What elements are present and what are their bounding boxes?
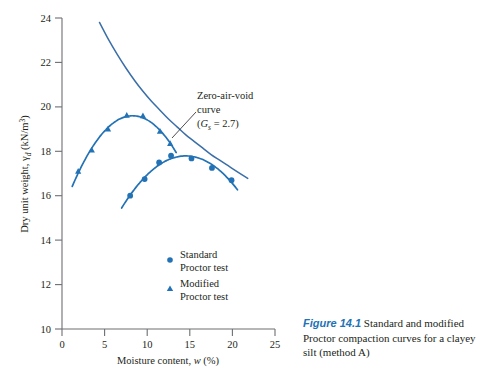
legend-standard-line-1: Standard: [180, 249, 218, 260]
y-tick-label: 12: [41, 279, 52, 290]
x-tick-label: 25: [270, 339, 281, 350]
zero-air-void-annotation: Zero-air-void curve (Gs = 2.7): [197, 90, 254, 132]
y-tick-label: 24: [41, 13, 52, 24]
data-point-standard: [229, 177, 235, 183]
annotation-line-2: curve: [197, 104, 221, 115]
y-axis-title-prefix: Dry unit weight,: [19, 161, 30, 233]
data-point-modified: [140, 113, 146, 119]
y-tick-label: 18: [41, 146, 52, 157]
x-tick-label: 20: [227, 339, 238, 350]
y-axis-title: Dry unit weight, γd (kN/m3): [18, 115, 33, 233]
x-axis-ticks: [62, 329, 275, 336]
data-point-standard: [142, 176, 148, 182]
x-axis-title-italic: w: [194, 355, 201, 366]
modified-proctor-curve: [72, 116, 176, 187]
annotation-line-1: Zero-air-void: [197, 90, 254, 101]
figure-number-label: Figure 14.1: [303, 317, 361, 329]
annotation-line-3: (Gs = 2.7): [197, 118, 239, 132]
x-tick-label: 5: [102, 339, 107, 350]
y-axis-title-tail: ): [19, 115, 31, 119]
x-axis-tick-labels: 0 5 10 15 20 25: [59, 339, 280, 350]
x-tick-label: 15: [185, 339, 196, 350]
x-axis-title: Moisture content, w (%): [117, 355, 220, 367]
data-point-standard: [209, 165, 215, 171]
x-tick-label: 0: [59, 339, 64, 350]
standard-proctor-curve: [122, 156, 238, 208]
chart-legend: Standard Proctor test Modified Proctor t…: [167, 249, 228, 302]
x-axis-title-suffix: (%): [201, 355, 220, 367]
y-axis-tick-labels: 10 12 14 16 18 20 22 24: [41, 13, 52, 335]
y-axis-title-suffix: (kN/m: [19, 123, 31, 153]
legend-modified-line-1: Modified: [180, 278, 220, 289]
y-tick-label: 10: [41, 324, 52, 335]
data-point-standard: [168, 153, 174, 159]
data-point-standard: [127, 193, 133, 199]
y-tick-label: 22: [41, 57, 52, 68]
x-axis-title-prefix: Moisture content,: [117, 355, 194, 366]
figure-container: 10 12 14 16 18 20 22 24 0 5 10 15 20 25: [0, 0, 479, 382]
y-tick-label: 14: [41, 235, 52, 246]
y-axis-ticks: [55, 18, 62, 329]
x-tick-label: 10: [142, 339, 153, 350]
legend-modified-line-2: Proctor test: [180, 291, 228, 302]
figure-caption: Figure 14.1 Standard and modified Procto…: [303, 316, 479, 360]
legend-marker-circle-icon: [167, 257, 173, 263]
annotation-gs-value: = 2.7): [211, 118, 239, 130]
data-point-modified: [124, 112, 130, 118]
data-point-standard: [156, 159, 162, 165]
y-tick-label: 16: [41, 190, 52, 201]
legend-marker-triangle-icon: [167, 286, 173, 292]
y-tick-label: 20: [41, 101, 52, 112]
data-point-modified: [89, 147, 95, 153]
data-point-standard: [189, 155, 195, 161]
legend-standard-line-2: Proctor test: [180, 262, 228, 273]
